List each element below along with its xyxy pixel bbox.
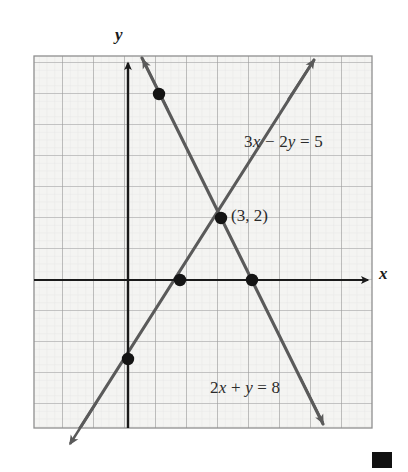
point-intersection-3-2 [215,212,227,224]
graph-figure: y x 3x − 2y = 5 2x + y = 8 (3, 2) [0,0,408,472]
grid-background [34,56,372,428]
equation-label-3x-minus-2y-equals-5: 3x − 2y = 5 [244,132,323,152]
intersection-point-label: (3, 2) [231,206,268,226]
coordinate-plane-svg [0,0,408,472]
point-x-intercept-2x-y [246,274,258,286]
y-axis-label: y [115,25,123,45]
x-axis-label: x [379,264,388,284]
point-y-intercept-3x-2y [122,353,134,365]
end-of-section-marker [372,452,392,468]
point-x-intercept-3x-2y [174,274,186,286]
equation-label-2x-plus-y-equals-8: 2x + y = 8 [210,378,280,398]
point-1-6 [153,88,165,100]
